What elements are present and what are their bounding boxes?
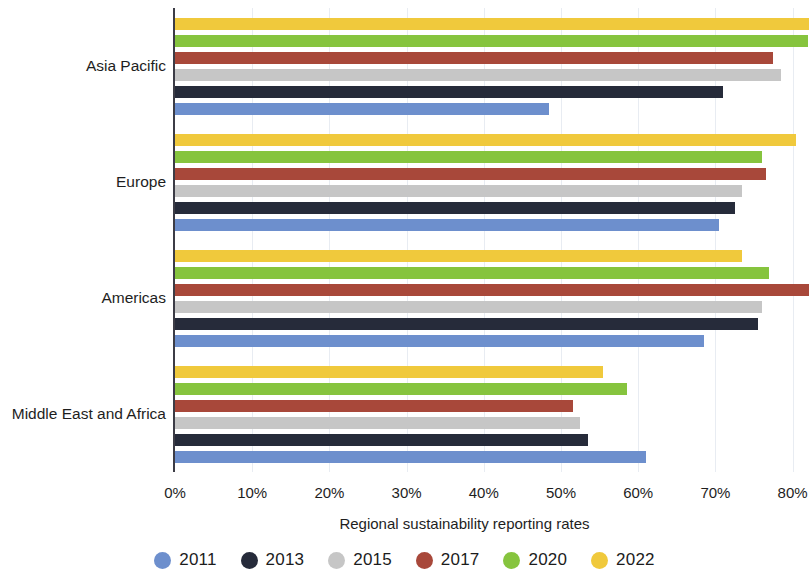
bar[interactable] [175,318,758,330]
bar[interactable] [175,35,808,47]
bar[interactable] [175,103,549,115]
bar[interactable] [175,400,573,412]
bar[interactable] [175,151,762,163]
bar-fill [175,318,758,330]
bar-fill [175,69,781,81]
bar-fill [175,18,809,30]
legend-label: 2020 [528,550,567,570]
bar[interactable] [175,366,603,378]
bar-fill [175,103,549,115]
bar[interactable] [175,69,781,81]
bar-fill [175,335,704,347]
bar-group [175,356,809,472]
bar[interactable] [175,383,627,395]
legend-swatch-icon [241,552,258,569]
legend-swatch-icon [591,552,608,569]
bar[interactable] [175,18,809,30]
legend-label: 2013 [266,550,305,570]
x-tick-label: 60% [598,484,678,501]
bar-fill [175,52,773,64]
x-tick-label: 0% [135,484,215,501]
bar[interactable] [175,335,704,347]
y-axis-line [173,8,175,472]
bar-fill [175,151,762,163]
x-tick-label: 50% [521,484,601,501]
legend-item[interactable]: 2013 [241,550,305,570]
legend-swatch-icon [503,552,520,569]
x-tick-label: 30% [367,484,447,501]
x-tick-label: 20% [289,484,369,501]
bar[interactable] [175,434,588,446]
bar[interactable] [175,134,796,146]
bar-fill [175,134,796,146]
bar[interactable] [175,185,742,197]
bar-fill [175,417,580,429]
bar-fill [175,86,723,98]
bar-fill [175,284,809,296]
legend-swatch-icon [154,552,171,569]
bar[interactable] [175,250,742,262]
bar-group [175,8,809,124]
legend-item[interactable]: 2017 [416,550,480,570]
bar[interactable] [175,284,809,296]
bar-fill [175,35,808,47]
plot-area [175,8,809,472]
bar[interactable] [175,52,773,64]
category-label: Americas [0,289,166,307]
legend-label: 2011 [179,550,216,570]
legend-label: 2015 [353,550,392,570]
x-tick-label: 70% [675,484,755,501]
bar-fill [175,366,603,378]
x-tick-label: 40% [444,484,524,501]
bar-group [175,240,809,356]
bar[interactable] [175,86,723,98]
bar[interactable] [175,301,762,313]
bar-group [175,124,809,240]
bar[interactable] [175,168,766,180]
legend-item[interactable]: 2022 [591,550,655,570]
legend-item[interactable]: 2020 [503,550,567,570]
bar-fill [175,434,588,446]
bar-fill [175,383,627,395]
x-axis-title: Regional sustainability reporting rates [0,515,809,532]
legend-label: 2017 [441,550,480,570]
bar-fill [175,301,762,313]
bar-fill [175,267,769,279]
bar-fill [175,451,646,463]
bar[interactable] [175,451,646,463]
bar-fill [175,400,573,412]
bar-fill [175,185,742,197]
category-label: Asia Pacific [0,57,166,75]
chart-legend: 201120132015201720202022 [0,550,809,570]
bar-fill [175,168,766,180]
category-label: Europe [0,173,166,191]
x-axis-title-text: Regional sustainability reporting rates [339,515,589,532]
legend-item[interactable]: 2015 [328,550,392,570]
x-tick-label: 80% [753,484,809,501]
category-label: Middle East and Africa [0,405,166,423]
bar-fill [175,219,719,231]
legend-item[interactable]: 2011 [154,550,216,570]
bar-fill [175,202,735,214]
bar[interactable] [175,219,719,231]
bar-fill [175,250,742,262]
legend-swatch-icon [328,552,345,569]
legend-swatch-icon [416,552,433,569]
bar[interactable] [175,417,580,429]
bar-chart: Asia PacificEuropeAmericasMiddle East an… [0,0,809,584]
bar[interactable] [175,267,769,279]
legend-label: 2022 [616,550,655,570]
bar[interactable] [175,202,735,214]
x-tick-label: 10% [212,484,292,501]
